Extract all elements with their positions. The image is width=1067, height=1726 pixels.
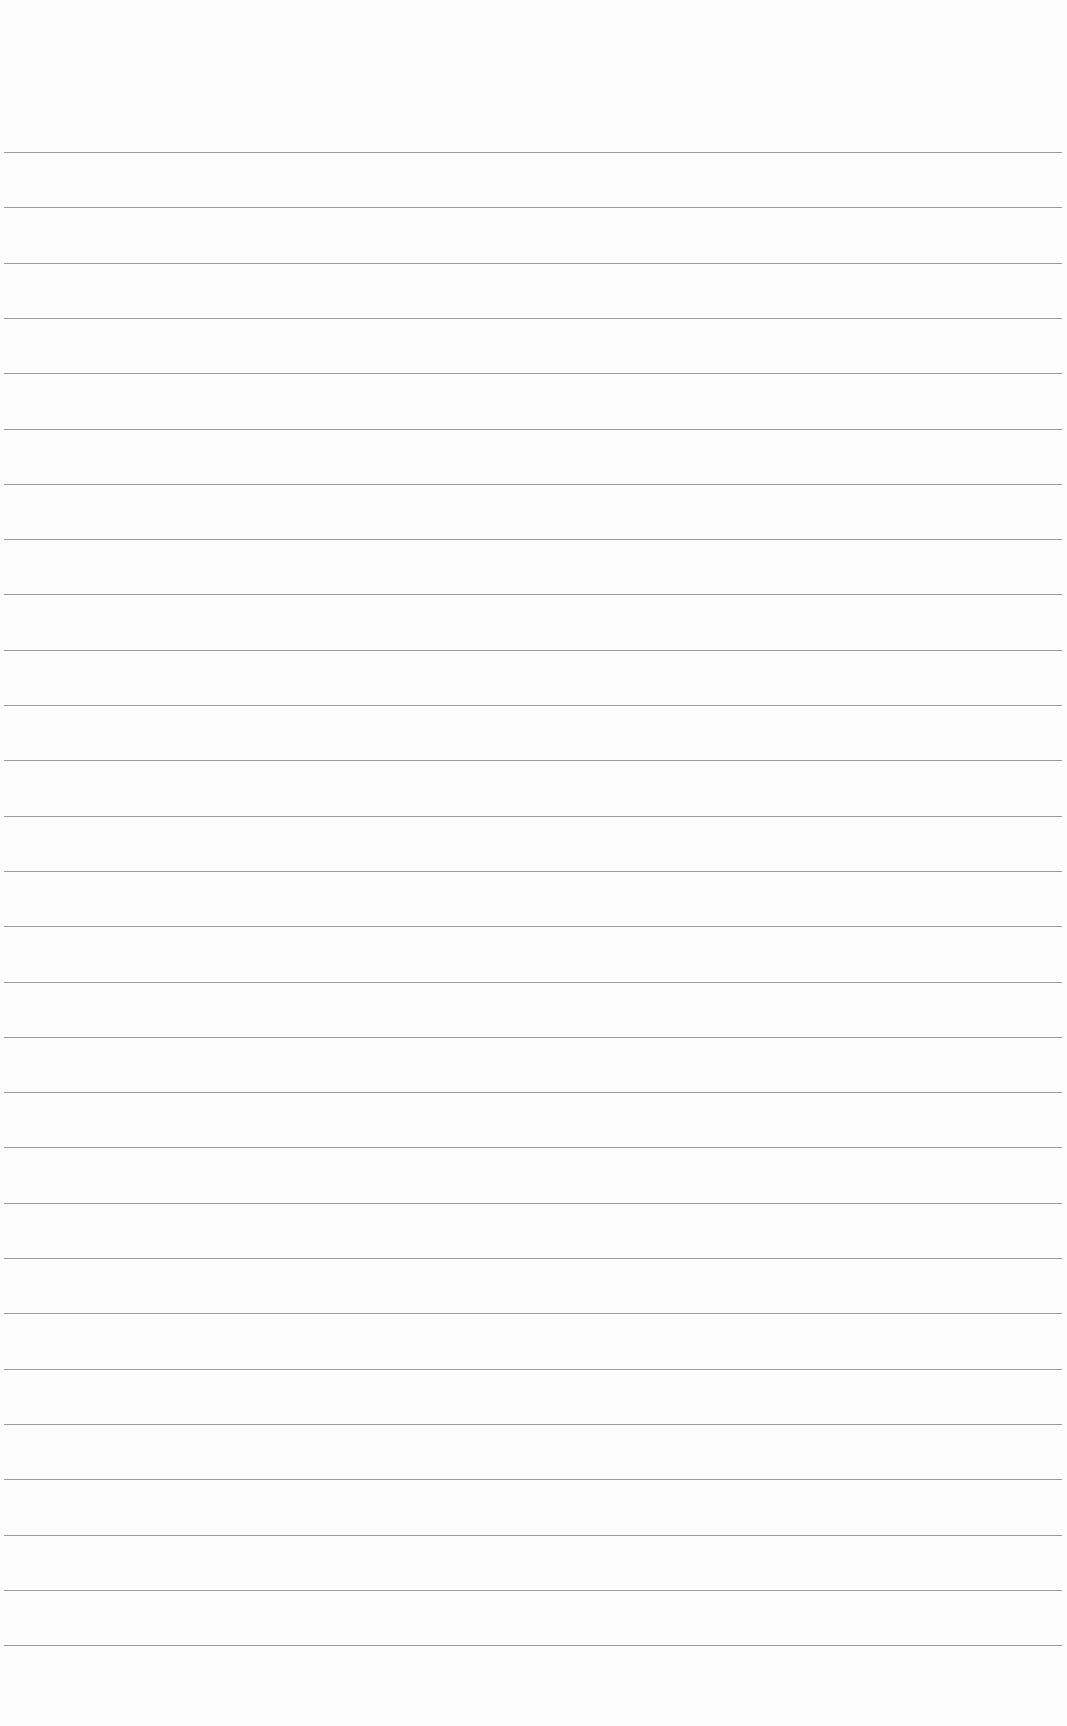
ruled-line <box>4 982 1062 983</box>
ruled-line <box>4 1590 1062 1591</box>
ruled-line <box>4 816 1062 817</box>
ruled-line <box>4 871 1062 872</box>
ruled-line <box>4 1369 1062 1370</box>
ruled-line <box>4 263 1062 264</box>
ruled-line <box>4 1645 1062 1646</box>
ruled-line <box>4 1092 1062 1093</box>
ruled-line <box>4 1258 1062 1259</box>
ruled-line <box>4 594 1062 595</box>
ruled-line <box>4 429 1062 430</box>
ruled-line <box>4 760 1062 761</box>
lined-paper-sheet <box>0 0 1067 1726</box>
ruled-line <box>4 539 1062 540</box>
ruled-line <box>4 1203 1062 1204</box>
ruled-line <box>4 1424 1062 1425</box>
ruled-line <box>4 373 1062 374</box>
ruled-line <box>4 650 1062 651</box>
ruled-line <box>4 1535 1062 1536</box>
ruled-line <box>4 1479 1062 1480</box>
ruled-line <box>4 207 1062 208</box>
ruled-line <box>4 1037 1062 1038</box>
ruled-line <box>4 318 1062 319</box>
ruled-line <box>4 1147 1062 1148</box>
ruled-line <box>4 484 1062 485</box>
ruled-line <box>4 1313 1062 1314</box>
ruled-line <box>4 152 1062 153</box>
ruled-line <box>4 705 1062 706</box>
ruled-line <box>4 926 1062 927</box>
